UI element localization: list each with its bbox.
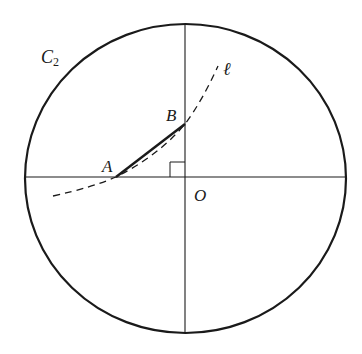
label-curve-ell: ℓ [223, 60, 231, 78]
label-point-a: A [102, 158, 112, 175]
label-point-o: O [194, 187, 206, 204]
label-c2: C2 [41, 48, 59, 68]
label-c2-main: C [41, 47, 53, 67]
label-point-b: B [166, 107, 176, 124]
label-c2-subscript: 2 [53, 55, 59, 69]
right-angle-marker [170, 162, 185, 177]
segment-ab [116, 124, 185, 177]
